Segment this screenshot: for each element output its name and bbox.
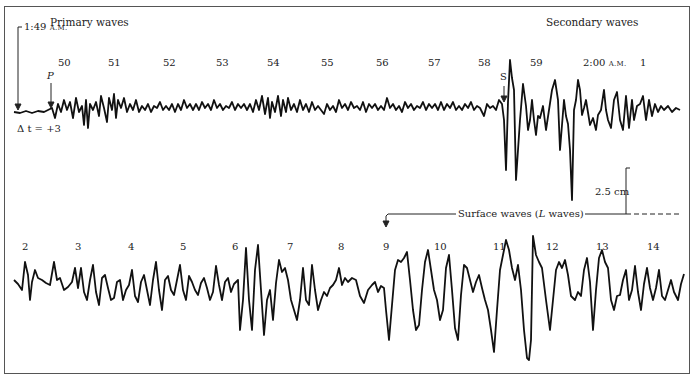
scale-bar — [626, 168, 680, 214]
bottom-minute-label: 8 — [338, 242, 344, 252]
top-minute-label: 54 — [267, 58, 280, 68]
surface-waves-label: Surface waves (L waves) — [457, 209, 585, 219]
bottom-minute-label: 9 — [383, 242, 389, 252]
secondary-waves-title: Secondary waves — [546, 17, 638, 28]
two-am-ampm: A.M. — [609, 60, 627, 68]
start-time-arrow — [15, 27, 22, 110]
two-am-time: 2:00 — [583, 57, 605, 68]
top-minute-label: 55 — [321, 58, 334, 68]
delta-t-label: Δ t = +3 — [17, 124, 61, 134]
s-wave-label: S — [500, 72, 507, 82]
top-minute-label: 53 — [216, 58, 229, 68]
bottom-minute-label: 5 — [180, 242, 186, 252]
top-minute-label: 59 — [530, 58, 543, 68]
start-time: 1:49 — [24, 21, 46, 32]
top-minute-label: 57 — [428, 58, 441, 68]
seismic-trace-bottom — [14, 236, 684, 360]
start-time-label: 1:49 A.M. — [24, 22, 68, 32]
start-time-ampm: A.M. — [50, 24, 68, 32]
bottom-minute-label: 11 — [493, 242, 506, 252]
top-minute-label: 52 — [163, 58, 176, 68]
top-minute-label: 50 — [58, 58, 71, 68]
bottom-minute-label: 6 — [232, 242, 238, 252]
bottom-minute-label: 14 — [647, 242, 660, 252]
bottom-minute-label: 10 — [434, 242, 447, 252]
bottom-minute-label: 12 — [546, 242, 559, 252]
bottom-minute-label: 7 — [287, 242, 293, 252]
top-minute-label: 58 — [478, 58, 491, 68]
top-minute-label: 1 — [640, 58, 646, 68]
bottom-minute-label: 13 — [596, 242, 609, 252]
surface-waves-text-end: waves) — [545, 208, 583, 219]
p-wave-label: P — [47, 71, 54, 81]
seismic-trace-top — [14, 60, 680, 200]
top-minute-label: 56 — [376, 58, 389, 68]
p-wave-arrow — [48, 83, 54, 108]
surface-waves-text: Surface waves ( — [458, 208, 539, 219]
bottom-minute-label: 2 — [22, 242, 28, 252]
scale-label: 2.5 cm — [595, 187, 629, 197]
two-am-label: 2:00 A.M. — [583, 58, 627, 68]
top-minute-label: 51 — [108, 58, 121, 68]
bottom-minute-label: 4 — [128, 242, 134, 252]
bottom-minute-label: 3 — [75, 242, 81, 252]
seismogram-figure: Primary waves Secondary waves 1:49 A.M. … — [0, 0, 695, 379]
s-wave-arrow — [501, 86, 507, 102]
